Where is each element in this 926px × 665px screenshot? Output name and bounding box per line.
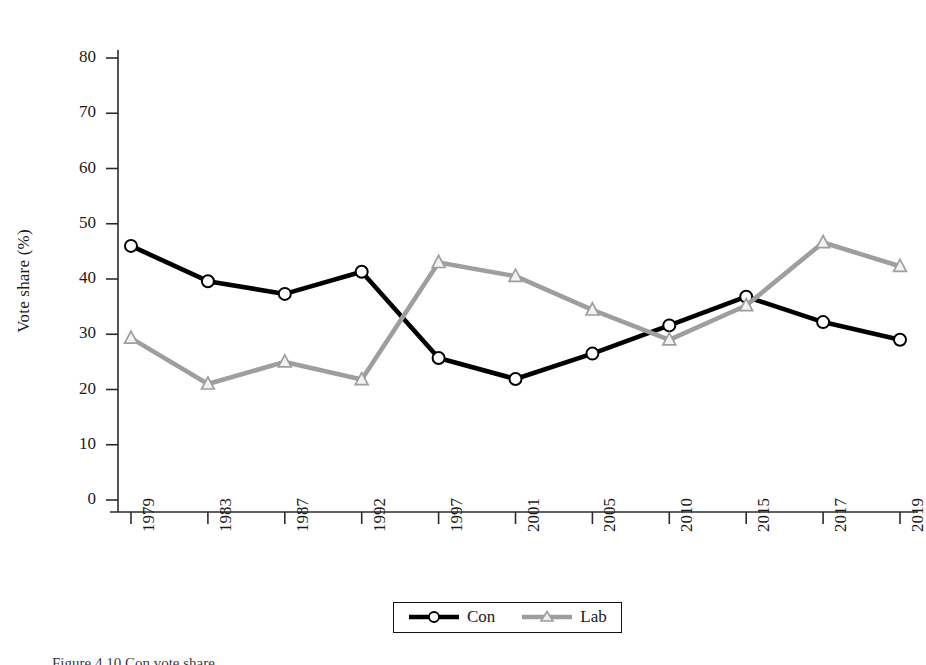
triangle-marker-icon: [521, 609, 573, 625]
y-tick-label: 40: [56, 268, 96, 288]
chart-legend: Con Lab: [393, 602, 622, 633]
data-point-marker: [356, 266, 368, 278]
x-tick-label: 1983: [216, 498, 236, 532]
figure-caption: Figure 4.10 Con vote share: [52, 655, 215, 665]
series-con: [125, 240, 906, 385]
y-tick-label: 60: [56, 158, 96, 178]
data-point-marker: [202, 275, 214, 287]
x-tick-label: 1997: [447, 498, 467, 532]
series-line: [131, 246, 900, 379]
series-layer: [125, 236, 907, 390]
x-tick-label: 2015: [754, 498, 774, 532]
x-tick-label: 1987: [293, 498, 313, 532]
y-axis-ticks: [106, 58, 118, 500]
x-tick-label: 1992: [370, 498, 390, 532]
x-tick-label: 1979: [139, 498, 159, 532]
legend-label-lab: Lab: [580, 608, 606, 625]
data-point-marker: [817, 316, 829, 328]
series-line: [131, 243, 900, 385]
y-tick-label: 70: [56, 102, 96, 122]
data-point-marker: [125, 240, 137, 252]
data-point-marker: [433, 352, 445, 364]
y-tick-label: 80: [56, 47, 96, 67]
legend-entry-con: Con: [408, 609, 495, 626]
x-tick-label: 2005: [600, 498, 620, 532]
chart-svg: [0, 0, 926, 665]
circle-marker-icon: [408, 609, 460, 625]
plot-area: [0, 0, 926, 665]
figure-container: Vote share (%) 01020304050607080 1979198…: [0, 0, 926, 665]
x-tick-label: 2019: [908, 498, 926, 532]
data-point-marker: [663, 319, 675, 331]
y-tick-label: 20: [56, 379, 96, 399]
legend-label-con: Con: [467, 608, 495, 625]
y-tick-label: 50: [56, 213, 96, 233]
x-tick-label: 2017: [831, 498, 851, 532]
data-point-marker: [894, 334, 906, 346]
x-tick-label: 2010: [677, 498, 697, 532]
data-point-marker: [279, 288, 291, 300]
y-tick-label: 0: [56, 489, 96, 509]
y-tick-label: 10: [56, 434, 96, 454]
data-point-marker: [510, 373, 522, 385]
legend-entry-lab: Lab: [521, 609, 606, 626]
x-tick-label: 2001: [524, 498, 544, 532]
data-point-marker: [586, 348, 598, 360]
y-tick-label: 30: [56, 323, 96, 343]
x-axis-ticks: [131, 512, 900, 524]
data-point-marker: [125, 331, 138, 343]
